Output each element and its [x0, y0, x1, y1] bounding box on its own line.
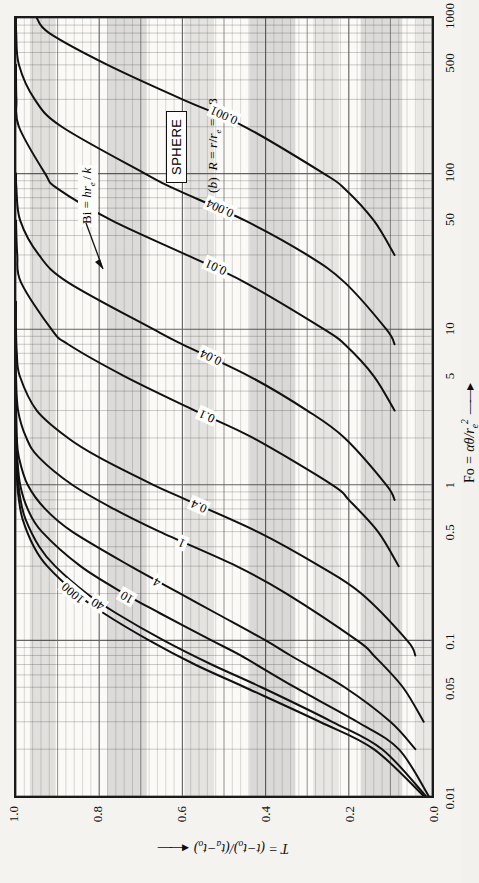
x-tick-label: 1	[442, 482, 458, 489]
x-tick-label: 50	[442, 213, 458, 226]
y-tick-label: 0.0	[426, 806, 442, 840]
x-tick-label: 0.5	[442, 524, 458, 540]
x-tick-label: 500	[442, 53, 458, 73]
curve-4	[16, 391, 415, 749]
y-axis-label: T = (t−to)/(ta−to) ◂——	[59, 839, 389, 858]
x-tick-label: 10	[442, 322, 458, 335]
y-tick-label: 0.2	[342, 806, 358, 840]
x-tick-label: 5	[442, 373, 458, 380]
y-tick-label: 0.4	[258, 806, 274, 840]
biot-annotation: Bi = hre / k	[78, 165, 98, 227]
data-curves	[16, 18, 432, 796]
y-tick-label: 0.8	[90, 806, 106, 840]
y-tick-label: 1.0	[6, 806, 22, 840]
biot-arrow-icon	[72, 219, 108, 283]
shape-badge: SPHERE	[166, 111, 187, 183]
y-tick-label: 0.6	[174, 806, 190, 840]
curve-1	[16, 329, 424, 722]
plot-area	[14, 16, 434, 798]
x-tick-label: 0.1	[442, 633, 458, 649]
x-tick-label: 0.01	[442, 787, 458, 810]
curve-1000	[16, 438, 424, 796]
x-tick-label: 0.05	[442, 677, 458, 700]
x-axis-label: Fo = αθ/re2 ——▸	[460, 385, 479, 483]
x-tick-label: 100	[442, 163, 458, 183]
x-tick-label: 1000	[442, 3, 458, 29]
